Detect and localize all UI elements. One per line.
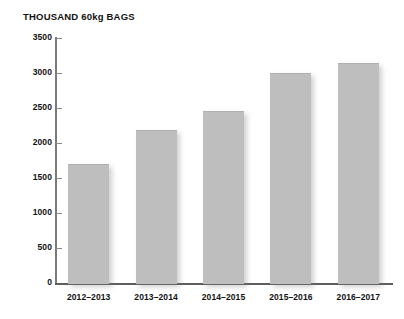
bar — [136, 130, 177, 284]
y-axis-tick-label: 2500 — [0, 102, 52, 114]
y-axis-tick-label: 500 — [0, 242, 52, 254]
x-axis-tick-label: 2015–2016 — [257, 292, 324, 302]
x-axis-tick-label: 2012–2013 — [55, 292, 122, 302]
y-axis-tick-mark — [56, 248, 62, 249]
bar — [203, 111, 244, 284]
y-axis-tick-mark — [56, 108, 62, 109]
chart-title: THOUSAND 60kg BAGS — [23, 11, 135, 22]
y-axis-tick-mark — [56, 143, 62, 144]
bar — [338, 63, 379, 285]
y-axis-tick-label: 3500 — [0, 32, 52, 44]
y-axis-tick-label: 1000 — [0, 207, 52, 219]
bar — [68, 164, 109, 284]
y-axis-tick-label: 1500 — [0, 172, 52, 184]
y-axis-tick-mark — [56, 38, 62, 39]
y-axis-tick-label: 2000 — [0, 137, 52, 149]
y-axis-tick-mark — [56, 73, 62, 74]
x-axis-tick-label: 2013–2014 — [122, 292, 189, 302]
x-axis-tick-label: 2016–2017 — [325, 292, 392, 302]
bar-chart: THOUSAND 60kg BAGS 050010001500200025003… — [0, 0, 404, 319]
y-axis-tick-label: 0 — [0, 277, 52, 289]
y-axis-tick-mark — [56, 213, 62, 214]
y-axis-tick-label: 3000 — [0, 67, 52, 79]
bar — [270, 73, 311, 284]
y-axis-tick-mark — [56, 178, 62, 179]
x-axis-tick-label: 2014–2015 — [190, 292, 257, 302]
